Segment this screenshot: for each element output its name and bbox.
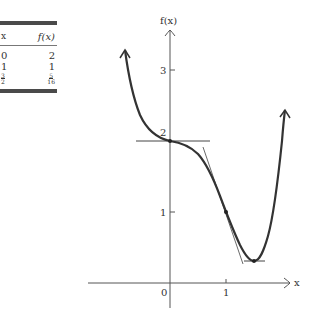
x-tick-label-0: 0 xyxy=(161,287,167,298)
y-tick-label-2: 2 xyxy=(160,127,166,138)
function-graph: x f(x) 0 1 1 2 3 xyxy=(0,0,315,319)
x-axis-label: x xyxy=(294,277,300,288)
point-0-2 xyxy=(168,139,172,143)
point-min xyxy=(252,259,256,263)
point-1-1 xyxy=(224,210,228,214)
function-curve xyxy=(125,50,285,261)
y-axis-label: f(x) xyxy=(160,15,177,26)
x-tick-label-1: 1 xyxy=(223,287,229,298)
y-tick-label-1: 1 xyxy=(160,207,166,218)
y-tick-label-3: 3 xyxy=(160,65,166,76)
